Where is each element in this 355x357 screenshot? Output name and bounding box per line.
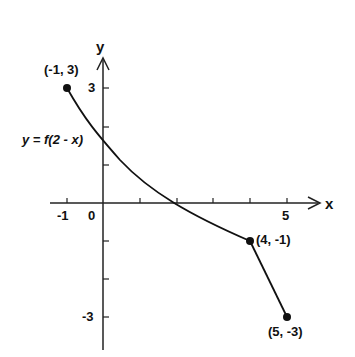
y-tick-label-3: 3 xyxy=(88,80,95,95)
x-tick-label-0: 0 xyxy=(88,208,95,223)
x-tick-label-m1: -1 xyxy=(57,208,69,223)
function-label: y = f(2 - x) xyxy=(22,132,83,147)
chart: y x (-1, 3) (4, -1) (5, -3) y = f(2 - x)… xyxy=(0,0,355,357)
x-axis-label: x xyxy=(325,195,333,212)
x-tick-label-5: 5 xyxy=(282,208,289,223)
point-2 xyxy=(246,237,254,245)
y-axis-label: y xyxy=(96,38,104,55)
point-1-label: (-1, 3) xyxy=(44,62,79,77)
plot-area xyxy=(0,0,355,357)
point-2-label: (4, -1) xyxy=(256,232,291,247)
point-3 xyxy=(283,313,291,321)
line-segment xyxy=(250,241,287,317)
point-1 xyxy=(63,84,71,92)
point-3-label: (5, -3) xyxy=(268,324,303,339)
y-tick-label-m3: -3 xyxy=(82,309,94,324)
